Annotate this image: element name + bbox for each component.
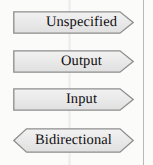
pennant-right-shape-icon [13,11,134,34]
pennant-right-shape-icon [13,50,134,73]
legend-item-unspecified[interactable]: Unspecified [13,11,134,34]
legend-canvas: Unspecified Output [0,0,153,165]
page-margin-rule [143,0,144,165]
double-arrow-shape-icon [13,128,134,153]
pennant-right-shape-icon [13,88,134,111]
legend-item-bidirectional[interactable]: Bidirectional [13,128,134,153]
legend-item-output[interactable]: Output [13,50,134,73]
legend-item-input[interactable]: Input [13,88,134,111]
